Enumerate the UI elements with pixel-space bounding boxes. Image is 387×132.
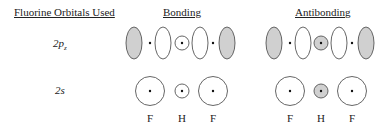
bonding-atom-label-h: H xyxy=(178,113,186,124)
antibonding-2pz-group xyxy=(266,27,374,59)
orbital-diagram xyxy=(0,0,387,132)
antibonding-2pz-left-f-inner-lobe xyxy=(295,27,311,59)
bonding-2pz-group xyxy=(126,27,235,59)
bonding-atom-label-f-left: F xyxy=(147,113,153,124)
bonding-2pz-right-f-outer-lobe-shaded xyxy=(219,27,235,59)
bonding-2s-right-f-nucleus-dot xyxy=(212,90,214,92)
antibonding-atom-label-h: H xyxy=(317,113,325,124)
antibonding-2pz-right-f-nucleus-dot xyxy=(351,42,353,44)
bonding-2pz-h-nucleus-dot xyxy=(181,42,183,44)
antibonding-2s-right-f-nucleus-dot xyxy=(351,90,353,92)
antibonding-2pz-right-f-outer-lobe-shaded xyxy=(358,27,374,59)
bonding-2pz-right-f-nucleus-dot xyxy=(212,42,214,44)
antibonding-2pz-right-f-inner-lobe xyxy=(331,27,347,59)
bonding-atom-label-f-right: F xyxy=(210,113,216,124)
antibonding-2pz-h-nucleus-dot xyxy=(320,42,322,44)
antibonding-atom-label-f-right: F xyxy=(349,113,355,124)
bonding-2pz-right-f-inner-lobe xyxy=(192,27,208,59)
bonding-2s-left-f-nucleus-dot xyxy=(149,90,151,92)
bonding-2s-group xyxy=(136,77,228,106)
bonding-2pz-left-f-outer-lobe-shaded xyxy=(126,27,142,59)
antibonding-2pz-left-f-outer-lobe-shaded xyxy=(266,27,282,59)
antibonding-2s-left-f-nucleus-dot xyxy=(289,90,291,92)
antibonding-2s-h-nucleus-dot xyxy=(320,90,322,92)
antibonding-2s-group xyxy=(276,77,367,106)
bonding-2s-h-nucleus-dot xyxy=(181,90,183,92)
bonding-2pz-left-f-inner-lobe xyxy=(155,27,171,59)
antibonding-2pz-left-f-nucleus-dot xyxy=(289,42,291,44)
antibonding-atom-label-f-left: F xyxy=(287,113,293,124)
bonding-2pz-left-f-nucleus-dot xyxy=(149,42,151,44)
